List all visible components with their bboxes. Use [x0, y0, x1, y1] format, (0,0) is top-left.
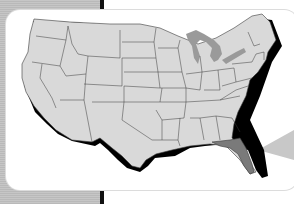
us-map: [0, 0, 294, 204]
